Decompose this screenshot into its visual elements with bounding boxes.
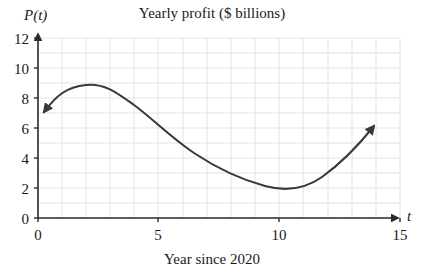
x-tick-label: 0 xyxy=(34,227,42,243)
x-tick-labels: 0 5 10 15 xyxy=(34,227,407,243)
y-tick-label: 12 xyxy=(14,31,29,47)
y-tick-label: 0 xyxy=(22,211,30,227)
profit-line-chart: Yearly profit ($ billions) P(t) t 0 2 4 … xyxy=(0,0,424,278)
y-tick-label: 2 xyxy=(22,181,30,197)
x-tick-label: 10 xyxy=(272,227,287,243)
y-axis-label: P(t) xyxy=(23,7,47,24)
y-tick-label: 10 xyxy=(14,61,29,77)
chart-page: Yearly profit ($ billions) P(t) t 0 2 4 … xyxy=(0,0,424,278)
grid-horizontal-lines xyxy=(38,38,400,218)
y-tick-label: 4 xyxy=(22,151,30,167)
x-axis-label: t xyxy=(407,208,412,224)
y-tick-labels: 0 2 4 6 8 10 12 xyxy=(14,31,30,227)
x-axis-caption: Year since 2020 xyxy=(164,251,260,267)
axes xyxy=(38,34,398,218)
chart-title: Yearly profit ($ billions) xyxy=(139,5,285,22)
x-tick-label: 15 xyxy=(393,227,408,243)
grid-lines xyxy=(38,38,400,218)
x-tick-label: 5 xyxy=(154,227,162,243)
y-tick-label: 8 xyxy=(22,91,30,107)
y-tick-label: 6 xyxy=(22,121,30,137)
